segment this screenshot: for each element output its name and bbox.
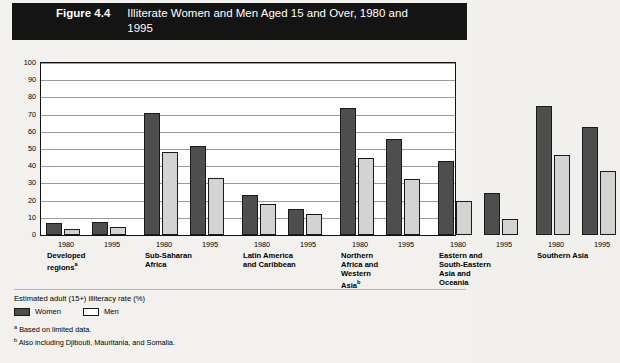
year-label: 1995 [187,240,233,249]
y-tick-label-100: 100 [24,59,36,66]
bar-men [358,158,374,235]
bar-series-area [41,63,455,235]
bar-men [306,214,322,236]
footnote: b Also including Djibouti, Mauritania, a… [14,335,466,348]
bar-men [554,155,570,235]
year-label: 1995 [579,240,620,249]
bar-women [46,223,62,235]
y-tick-label-20: 20 [28,197,36,204]
footnote: a Based on limited data. [14,322,466,335]
footer-divider [14,289,466,290]
bar-women [536,106,552,235]
bar-women [190,146,206,235]
figure-number: Figure 4.4 [12,6,110,21]
y-tick-label-50: 50 [28,145,36,152]
year-label: 1980 [43,240,89,249]
bar-pair [579,63,620,235]
bar-women [340,108,356,235]
bar-men [64,229,80,235]
footer-caption: Estimated adult (15+) illiteracy rate (%… [14,293,466,304]
bar-men [110,227,126,235]
group-label: Southern Asia [537,251,620,260]
y-tick-label-70: 70 [28,111,36,118]
group-label: Developedregionsa [47,251,143,272]
bar-men [456,201,472,235]
bar-pair [141,63,187,235]
group-axis-labels: DevelopedregionsaSub-SaharanAfricaLatin … [41,251,461,291]
legend-label-women: Women [35,307,61,316]
bar-pair [337,63,383,235]
legend-swatch-men [83,308,99,316]
bar-men [404,179,420,235]
footnotes: a Based on limited data.b Also including… [14,322,466,349]
bar-pair [89,63,135,235]
year-label: 1980 [533,240,579,249]
year-label: 1995 [383,240,429,249]
year-axis: 1980199519801995198019951980199519801995… [41,240,455,251]
group-label: NorthernAfrica andWesternAsiab [341,251,437,290]
bar-women [144,113,160,235]
bar-women [386,139,402,235]
bar-men [502,219,518,235]
year-label: 1995 [481,240,527,249]
figure-footer: Estimated adult (15+) illiteracy rate (%… [14,293,466,349]
bar-pair [285,63,331,235]
legend-label-men: Men [104,307,119,316]
bar-pair [435,63,481,235]
y-tick-label-80: 80 [28,94,36,101]
y-tick-label-30: 30 [28,180,36,187]
bar-men [208,178,224,235]
bar-women [92,222,108,235]
group-label: Sub-SaharanAfrica [145,251,241,269]
figure-banner: Figure 4.4 Illiterate Women and Men Aged… [12,3,467,40]
y-tick-label-40: 40 [28,163,36,170]
y-tick-label-90: 90 [28,77,36,84]
chart-container: 0102030405060708090100 19801995198019951… [14,52,466,288]
legend-swatch-women [14,308,30,316]
bar-men [600,171,616,235]
group-label: Latin Americaand Caribbean [243,251,339,269]
year-label: 1995 [285,240,331,249]
bar-women [242,195,258,235]
figure-title: Illiterate Women and Men Aged 15 and Ove… [110,6,427,36]
bar-men [162,152,178,235]
bar-pair [383,63,429,235]
year-label: 1995 [89,240,135,249]
bar-women [438,161,454,235]
bar-pair [481,63,527,235]
bar-women [484,193,500,235]
year-label: 1980 [141,240,187,249]
bar-pair [43,63,89,235]
legend: Women Men [14,307,466,316]
y-tick-label-0: 0 [32,231,36,238]
bar-men [260,204,276,235]
year-label: 1980 [337,240,383,249]
bar-pair [239,63,285,235]
bar-pair [187,63,233,235]
y-tick-label-10: 10 [28,214,36,221]
y-axis-labels: 0102030405060708090100 [14,62,36,236]
y-tick-label-60: 60 [28,128,36,135]
group-label: Eastern andSouth-EasternAsia andOceania [439,251,535,287]
year-label: 1980 [435,240,481,249]
bar-women [582,127,598,235]
bar-women [288,209,304,235]
bar-pair [533,63,579,235]
year-label: 1980 [239,240,285,249]
